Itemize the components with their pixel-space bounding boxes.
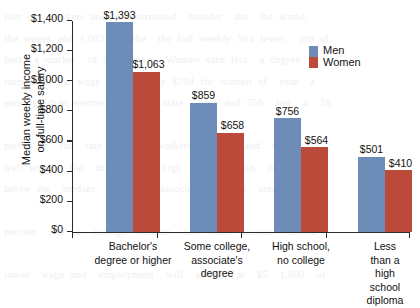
- y-axis-tick: $200: [67, 201, 72, 202]
- y-axis-tick: $1,000: [67, 80, 72, 81]
- bar-value-label-men-some-college: $859: [192, 89, 215, 101]
- legend-label-group: Men Women: [323, 45, 361, 68]
- x-axis-tick: [241, 232, 242, 238]
- bar-women-bachelors[interactable]: [133, 72, 160, 232]
- x-axis-tick: [72, 232, 73, 238]
- y-axis-tick: $1,400: [67, 20, 72, 21]
- bar-value-label-women-less-than-high-school: $410: [389, 157, 412, 169]
- y-axis-tick: $800: [67, 110, 72, 111]
- bar-value-label-men-less-than-high-school: $501: [360, 143, 383, 155]
- x-axis-category-label-high-school: High school, no college: [272, 240, 330, 267]
- y-axis-tick-label: $200: [40, 193, 63, 205]
- y-axis-tick: $600: [67, 140, 72, 141]
- x-axis-category-label-some-college: Some college, associate's degree: [184, 240, 251, 281]
- legend-swatch-women: [309, 57, 318, 68]
- bar-men-some-college[interactable]: [190, 103, 217, 232]
- y-axis-tick-label: $600: [40, 133, 63, 145]
- bar-men-less-than-high-school[interactable]: [358, 157, 385, 233]
- bar-women-some-college[interactable]: [217, 133, 244, 232]
- y-axis-tick-label: $800: [40, 103, 63, 115]
- bar-men-bachelors[interactable]: [106, 22, 133, 232]
- bar-value-label-men-bachelors: $1,393: [103, 9, 135, 21]
- bar-value-label-men-high-school: $756: [276, 105, 299, 117]
- bar-women-high-school[interactable]: [301, 147, 328, 232]
- x-axis-category-label-less-than-high-school: Less than a high school diploma: [367, 240, 404, 308]
- legend-label-women: Women: [323, 57, 361, 69]
- legend-label-men: Men: [323, 45, 361, 57]
- legend: Men Women: [309, 45, 361, 68]
- bar-men-high-school[interactable]: [274, 118, 301, 232]
- y-axis-tick-label: $1,400: [31, 12, 63, 24]
- bar-women-less-than-high-school[interactable]: [385, 170, 412, 232]
- y-axis-tick: $1,200: [67, 50, 72, 51]
- y-axis-tick-label: $1,200: [31, 42, 63, 54]
- x-axis-tick: [326, 232, 327, 238]
- x-axis-tick: [157, 232, 158, 238]
- bar-value-label-women-some-college: $658: [221, 119, 244, 131]
- x-axis-tick: [409, 232, 410, 238]
- x-axis-category-label-bachelors: Bachelor's degree or higher: [94, 240, 171, 267]
- y-axis-tick-label: $1,000: [31, 73, 63, 85]
- y-axis-tick-label: $400: [40, 163, 63, 175]
- y-axis-line: [72, 21, 73, 232]
- bar-value-label-women-bachelors: $1,063: [132, 58, 164, 70]
- legend-swatch-men: [309, 46, 318, 57]
- y-axis-tick-label: $0: [51, 223, 63, 235]
- legend-swatch-group: [309, 46, 318, 68]
- bar-value-label-women-high-school: $564: [305, 134, 328, 146]
- y-axis-tick: $400: [67, 171, 72, 172]
